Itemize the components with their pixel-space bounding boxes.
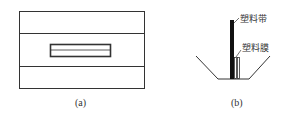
- plastic-strip-label: 塑料带: [240, 12, 267, 25]
- figure-a-drawing: [20, 12, 145, 89]
- plastic-film-label: 塑料膜: [242, 41, 269, 54]
- figure-b-caption: (b): [231, 97, 243, 108]
- figure-a-caption: (a): [75, 97, 86, 108]
